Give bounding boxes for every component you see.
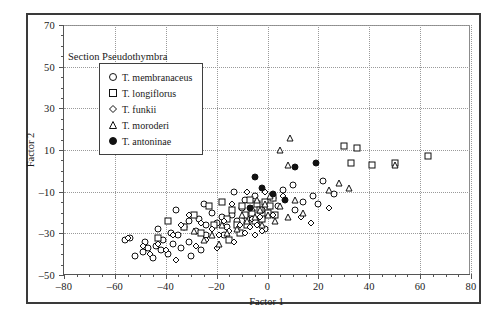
data-point <box>292 197 299 204</box>
x-axis-minor-tick <box>306 274 307 277</box>
y-axis-minor-tick <box>61 171 64 172</box>
data-point <box>185 238 192 245</box>
x-axis-tick <box>166 274 167 279</box>
square-open-icon <box>106 89 120 97</box>
y-axis-minor-tick <box>61 181 64 182</box>
y-axis-minor-tick <box>61 213 64 214</box>
x-axis-tick-label: –40 <box>158 281 174 292</box>
y-axis-minor-tick <box>61 119 64 120</box>
data-point <box>424 153 431 160</box>
data-point <box>335 180 342 187</box>
y-axis-minor-tick <box>61 88 64 89</box>
legend-item: T. funkii <box>106 101 196 117</box>
x-axis-tick <box>318 274 319 279</box>
legend-item: T. moroderi <box>106 117 196 133</box>
data-point <box>185 211 192 218</box>
data-point <box>300 209 307 216</box>
x-axis-minor-tick <box>458 274 459 277</box>
data-point <box>190 228 197 235</box>
x-axis-minor-tick <box>407 274 408 277</box>
data-point <box>325 205 332 212</box>
legend-item-label: T. membranaceus <box>120 72 192 83</box>
y-axis-tick-label: 30 <box>44 103 55 114</box>
data-point <box>272 217 279 224</box>
x-axis-tick <box>268 274 269 279</box>
data-point <box>340 142 347 149</box>
gridline-vertical <box>471 25 472 274</box>
y-axis-tick <box>59 108 64 109</box>
x-axis-tick-label: 20 <box>313 281 324 292</box>
y-axis-minor-tick <box>61 140 64 141</box>
data-point <box>259 222 266 229</box>
data-point <box>325 186 332 193</box>
circle-filled-icon <box>106 137 120 145</box>
figure-scatter-plot: –80–60–40–20020406080–50–30–1010305070 S… <box>0 0 501 333</box>
x-axis-tick <box>369 274 370 279</box>
data-point <box>261 201 268 208</box>
y-axis-tick <box>59 67 64 68</box>
data-point <box>193 242 200 249</box>
x-axis-tick-label: 40 <box>364 281 375 292</box>
legend-item-label: T. moroderi <box>120 120 169 131</box>
y-axis-minor-tick <box>61 98 64 99</box>
x-axis-tick <box>115 274 116 279</box>
x-axis-tick-label: –20 <box>208 281 224 292</box>
data-point <box>345 184 352 191</box>
legend-item: T. antoninae <box>106 133 196 149</box>
data-point <box>300 199 307 206</box>
y-axis-minor-tick <box>61 35 64 36</box>
data-point <box>165 217 172 224</box>
data-point <box>277 147 284 154</box>
data-point <box>269 190 276 197</box>
x-axis-tick <box>217 274 218 279</box>
x-axis-minor-tick <box>153 274 154 277</box>
x-axis-minor-tick <box>140 274 141 277</box>
x-axis-minor-tick <box>293 274 294 277</box>
diamond-open-icon <box>106 105 120 113</box>
data-point <box>228 201 235 208</box>
data-point <box>312 159 319 166</box>
x-axis-minor-tick <box>229 274 230 277</box>
data-point <box>259 228 266 235</box>
x-axis-tick-label: 80 <box>466 281 477 292</box>
data-point <box>132 253 139 260</box>
data-point <box>162 247 169 254</box>
x-axis-tick <box>64 274 65 279</box>
y-axis-tick <box>59 25 64 26</box>
section-title: Section Pseudothymbra <box>68 51 167 62</box>
legend-item-label: T. longiflorus <box>120 88 176 99</box>
data-point <box>391 161 398 168</box>
y-axis-title: Factor 2 <box>25 133 36 168</box>
x-axis-title: Factor 1 <box>63 296 470 307</box>
y-axis-tick-label: 70 <box>44 20 55 31</box>
y-axis-minor-tick <box>61 223 64 224</box>
data-point <box>231 188 238 195</box>
data-point <box>208 232 215 239</box>
data-point <box>282 197 289 204</box>
data-point <box>147 251 154 258</box>
data-point <box>315 201 322 208</box>
data-point <box>310 192 317 199</box>
data-point <box>259 184 266 191</box>
data-point <box>178 222 185 229</box>
x-axis-minor-tick <box>382 274 383 277</box>
x-axis-tick-label: 0 <box>265 281 270 292</box>
data-point <box>208 209 215 216</box>
data-point <box>155 226 162 233</box>
x-axis-tick-label: –80 <box>56 281 72 292</box>
x-axis-tick-label: –60 <box>107 281 123 292</box>
y-axis-tick <box>59 233 64 234</box>
x-axis-minor-tick <box>357 274 358 277</box>
data-point <box>198 219 205 226</box>
data-point <box>254 197 261 204</box>
data-point <box>348 159 355 166</box>
y-axis-tick <box>59 192 64 193</box>
x-axis-minor-tick <box>128 274 129 277</box>
data-point <box>287 134 294 141</box>
data-point <box>246 205 253 212</box>
legend-item: T. longiflorus <box>106 85 196 101</box>
data-point <box>139 242 146 249</box>
data-point <box>251 232 258 239</box>
x-axis-minor-tick <box>191 274 192 277</box>
legend-item-label: T. funkii <box>120 104 156 115</box>
